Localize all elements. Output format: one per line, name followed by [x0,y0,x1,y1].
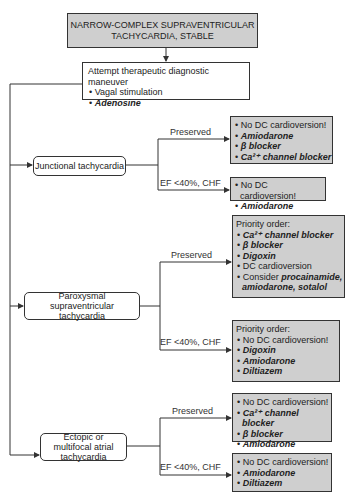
treatment-item: β blocker [236,240,344,251]
treatment-item: Amiodarone [236,439,331,450]
priority-heading: Priority order: [236,324,339,335]
condition-label-reduced-ef: EF <40%, CHF [160,178,221,188]
treatment-item: Amiodarone [234,131,332,142]
condition-label-preserved: Preserved [172,406,213,416]
treatment-item: Digoxin [236,251,344,262]
branch-junctional: Junctional tachycardia [33,156,126,176]
branch-ectopic: Ectopic or multifocal atrial tachycardia [40,433,127,461]
branch-psvt: Paroxysmal supraventricular tachycardia [24,292,140,320]
condition-label-preserved: Preserved [170,127,211,137]
title-line-2: TACHYCARDIA, STABLE [68,31,257,42]
initial-step-item: Adenosine [88,98,249,109]
treatment-box: No DC cardioversion! Amiodarone Diltiaze… [232,453,332,492]
treatment-item: No DC cardioversion! [234,120,332,131]
treatment-item: Amiodarone [234,201,325,212]
treatment-box: No DC cardioversion! Amiodarone β blocke… [230,116,333,164]
treatment-item: Consider procainamide, amiodarone, sotal… [236,272,344,293]
treatment-box: No DC cardioversion! Ca²⁺ channel blocke… [232,393,332,442]
treatment-item: β blocker [236,429,331,440]
treatment-box: Priority order: No DC cardioversion! Dig… [232,320,340,382]
initial-step-box: Attempt therapeutic diagnostic maneuver … [82,62,250,100]
branch-label: Paroxysmal supraventricular tachycardia [29,291,135,321]
treatment-item: Digoxin [236,345,339,356]
treatment-item: Amiodarone [236,356,339,367]
treatment-item: Ca²⁺ channel blocker [234,152,332,163]
treatment-item: Amiodarone [236,468,331,479]
condition-label-reduced-ef: EF <40%, CHF [160,337,221,347]
title-box: NARROW-COMPLEX SUPRAVENTRICULAR TACHYCAR… [67,13,258,48]
treatment-box: No DC cardioversion! Amiodarone [230,177,326,201]
treatment-item: Ca²⁺ channel blocker [236,408,331,429]
treatment-item: Ca²⁺ channel blocker [236,230,344,241]
initial-step-item: Vagal stimulation [88,87,249,98]
treatment-item: No DC cardioversion! [236,457,331,468]
branch-label: Ectopic or multifocal atrial tachycardia [44,432,123,462]
title-line-1: NARROW-COMPLEX SUPRAVENTRICULAR [68,20,257,31]
treatment-item: β blocker [234,141,332,152]
priority-heading: Priority order: [236,219,344,230]
treatment-item: Diltiazem [236,478,331,489]
treatment-box: Priority order: Ca²⁺ channel blocker β b… [232,215,345,298]
treatment-item: No DC cardioversion! [234,180,325,201]
initial-step-heading: Attempt therapeutic diagnostic maneuver [88,66,249,87]
treatment-item: Diltiazem [236,366,339,377]
treatment-item: No DC cardioversion! [236,335,339,346]
treatment-prefix: Consider [243,272,282,282]
branch-label: Junctional tachycardia [35,161,124,172]
treatment-item: No DC cardioversion! [236,397,331,408]
treatment-item: DC cardioversion [236,261,344,272]
condition-label-reduced-ef: EF <40%, CHF [160,462,221,472]
condition-label-preserved: Preserved [171,250,212,260]
